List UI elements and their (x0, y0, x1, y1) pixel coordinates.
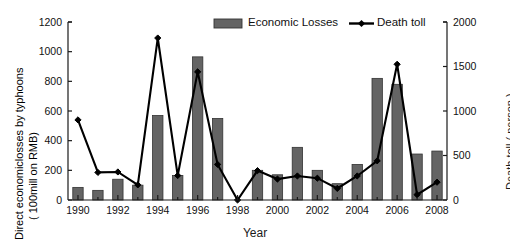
x-tick-label-2008: 2008 (425, 204, 449, 216)
y-tick-label-right-500: 500 (453, 149, 471, 161)
plot-area: 0200400600800100012000500100015002000199… (0, 0, 510, 250)
y-tick-label-right-0: 0 (453, 194, 459, 206)
legend-marker-death-toll (358, 20, 365, 27)
death-toll-marker-1994 (155, 35, 161, 41)
y-tick-label-left-1000: 1000 (39, 45, 63, 57)
legend-swatch-economic-losses (214, 19, 242, 28)
y-tick-label-right-1500: 1500 (453, 60, 477, 72)
legend-label-economic-losses: Economic Losses (248, 16, 338, 28)
legend-label-death-toll: Death toll (377, 16, 426, 28)
y-tick-label-right-1000: 1000 (453, 105, 477, 117)
y-tick-label-left-200: 200 (44, 164, 62, 176)
x-tick-label-1992: 1992 (106, 204, 130, 216)
chart-figure: Direct economiclosses by typhoons ( 100m… (0, 0, 510, 250)
x-tick-label-1996: 1996 (186, 204, 210, 216)
x-tick-label-1990: 1990 (66, 204, 90, 216)
x-tick-label-1994: 1994 (146, 204, 170, 216)
bar-1996 (192, 57, 202, 200)
bar-1994 (153, 115, 163, 200)
x-tick-label-2000: 2000 (266, 204, 290, 216)
y-tick-label-left-800: 800 (44, 75, 62, 87)
bar-2006 (392, 84, 402, 200)
bar-2004 (352, 164, 362, 200)
x-tick-label-2006: 2006 (385, 204, 409, 216)
x-tick-label-2002: 2002 (306, 204, 330, 216)
death-toll-marker-1991 (95, 169, 101, 175)
y-tick-label-left-400: 400 (44, 134, 62, 146)
death-toll-marker-2006 (394, 61, 400, 67)
y-tick-label-left-600: 600 (44, 105, 62, 117)
death-toll-marker-1990 (75, 117, 81, 123)
x-tick-label-2004: 2004 (346, 204, 370, 216)
bar-1997 (212, 118, 222, 200)
y-tick-label-left-1200: 1200 (39, 16, 63, 28)
y-tick-label-left-0: 0 (56, 194, 62, 206)
x-tick-label-1998: 1998 (226, 204, 250, 216)
y-tick-label-right-2000: 2000 (453, 16, 477, 28)
bar-2008 (432, 151, 442, 200)
